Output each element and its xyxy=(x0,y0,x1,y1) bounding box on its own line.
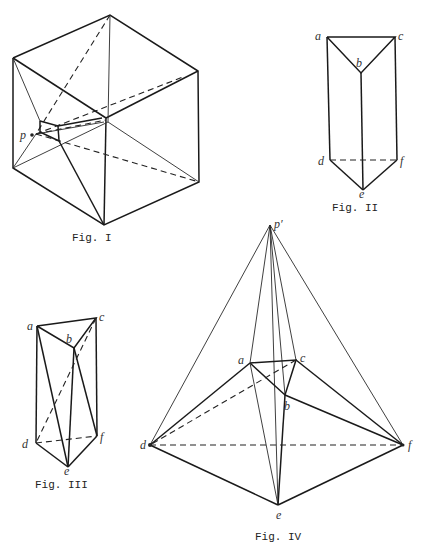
caption-fig-2: Fig. II xyxy=(332,202,378,214)
label-d: d xyxy=(140,438,147,452)
label-p: p xyxy=(19,128,26,142)
point-f xyxy=(402,444,405,447)
hidden-edge xyxy=(108,15,110,122)
inner-edge xyxy=(40,132,59,141)
label-d: d xyxy=(318,154,325,168)
edge-fe xyxy=(68,436,97,467)
figure-3-prism: a c b d f e Fig. III xyxy=(22,310,105,491)
inner-edge xyxy=(58,126,59,141)
label-c: c xyxy=(398,29,404,43)
point-p xyxy=(30,133,34,137)
line-pa xyxy=(250,225,270,363)
inner-edge xyxy=(40,118,102,126)
edge-be xyxy=(361,73,363,190)
line-pd xyxy=(150,225,270,445)
figure-4-pyramid: p′ a c b d f e Fig. IV xyxy=(140,217,413,543)
label-a: a xyxy=(315,29,321,43)
figure-1-cube: p Fig. I xyxy=(13,15,199,244)
dashed-line xyxy=(36,134,199,182)
point-d xyxy=(148,443,152,447)
edge-fe xyxy=(278,445,403,505)
edge-cd-hidden xyxy=(150,360,296,445)
label-d: d xyxy=(22,437,29,451)
label-f: f xyxy=(408,438,413,452)
edge-fe xyxy=(363,160,397,190)
label-a: a xyxy=(238,353,244,367)
label-e: e xyxy=(64,464,70,478)
edge-line xyxy=(59,141,104,225)
edge-de xyxy=(330,160,363,190)
label-f: f xyxy=(100,430,105,444)
caption-fig-1: Fig. I xyxy=(72,232,112,244)
label-b: b xyxy=(284,399,290,413)
triangle-abc xyxy=(250,360,296,395)
label-b: b xyxy=(356,56,362,70)
edge-de xyxy=(150,445,278,505)
dashed-line xyxy=(36,15,110,134)
edge-bf xyxy=(285,395,403,445)
label-c: c xyxy=(99,310,105,324)
label-e: e xyxy=(359,187,365,201)
edge-ad xyxy=(150,363,250,445)
caption-fig-3: Fig. III xyxy=(35,479,88,491)
label-f: f xyxy=(400,154,405,168)
hidden-edge xyxy=(108,122,199,182)
geometry-figures: p Fig. I a c b d f e Fig. II a c b d f xyxy=(0,0,430,545)
cube-edge xyxy=(13,58,106,118)
label-c: c xyxy=(300,351,306,365)
edge-cf xyxy=(395,37,397,160)
label-b: b xyxy=(66,332,72,346)
edge-df-hidden xyxy=(36,436,97,443)
cube-edge xyxy=(104,118,106,225)
edge-cf xyxy=(296,360,403,445)
edge-ad xyxy=(36,326,37,443)
cube-edge xyxy=(106,71,198,118)
edge-ad xyxy=(327,37,330,160)
label-p-prime: p′ xyxy=(273,217,283,231)
diag-ae xyxy=(37,326,68,467)
line-pc xyxy=(270,225,296,360)
edge-cf xyxy=(96,318,97,436)
diag-bf xyxy=(74,348,97,436)
caption-fig-4: Fig. IV xyxy=(255,531,302,543)
label-a: a xyxy=(27,319,33,333)
figure-2-prism: a c b d f e Fig. II xyxy=(315,29,405,214)
label-e: e xyxy=(276,508,282,522)
